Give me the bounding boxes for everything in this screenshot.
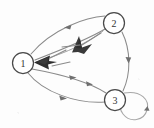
node-3[interactable]: 3 [105,90,126,111]
node-1[interactable]: 1 [13,53,34,74]
edge-2-to-3-arrowhead [126,57,132,64]
edge-2-to-1-upper-arrowhead [64,25,72,30]
edge-1-to-3-upper [32,69,106,93]
graph-canvas: 1 2 3 [0,0,154,128]
node-2[interactable]: 2 [104,13,125,34]
edge-group [28,16,150,120]
node-3-label: 3 [113,95,118,106]
node-2-label: 2 [112,18,117,29]
edge-3-self-loop-arrowhead [144,106,150,111]
edge-2-to-1-lower-path [35,29,105,60]
edge-1-to-3-lower-path [28,73,105,102]
edge-2-to-3 [122,32,131,91]
edge-1-to-3-lower [28,73,105,102]
edge-2-to-1-lower [35,29,105,62]
node-1-label: 1 [21,58,26,69]
edge-1-to-3-upper-path [32,69,106,93]
graph-figure: 1 2 3 [0,0,154,128]
